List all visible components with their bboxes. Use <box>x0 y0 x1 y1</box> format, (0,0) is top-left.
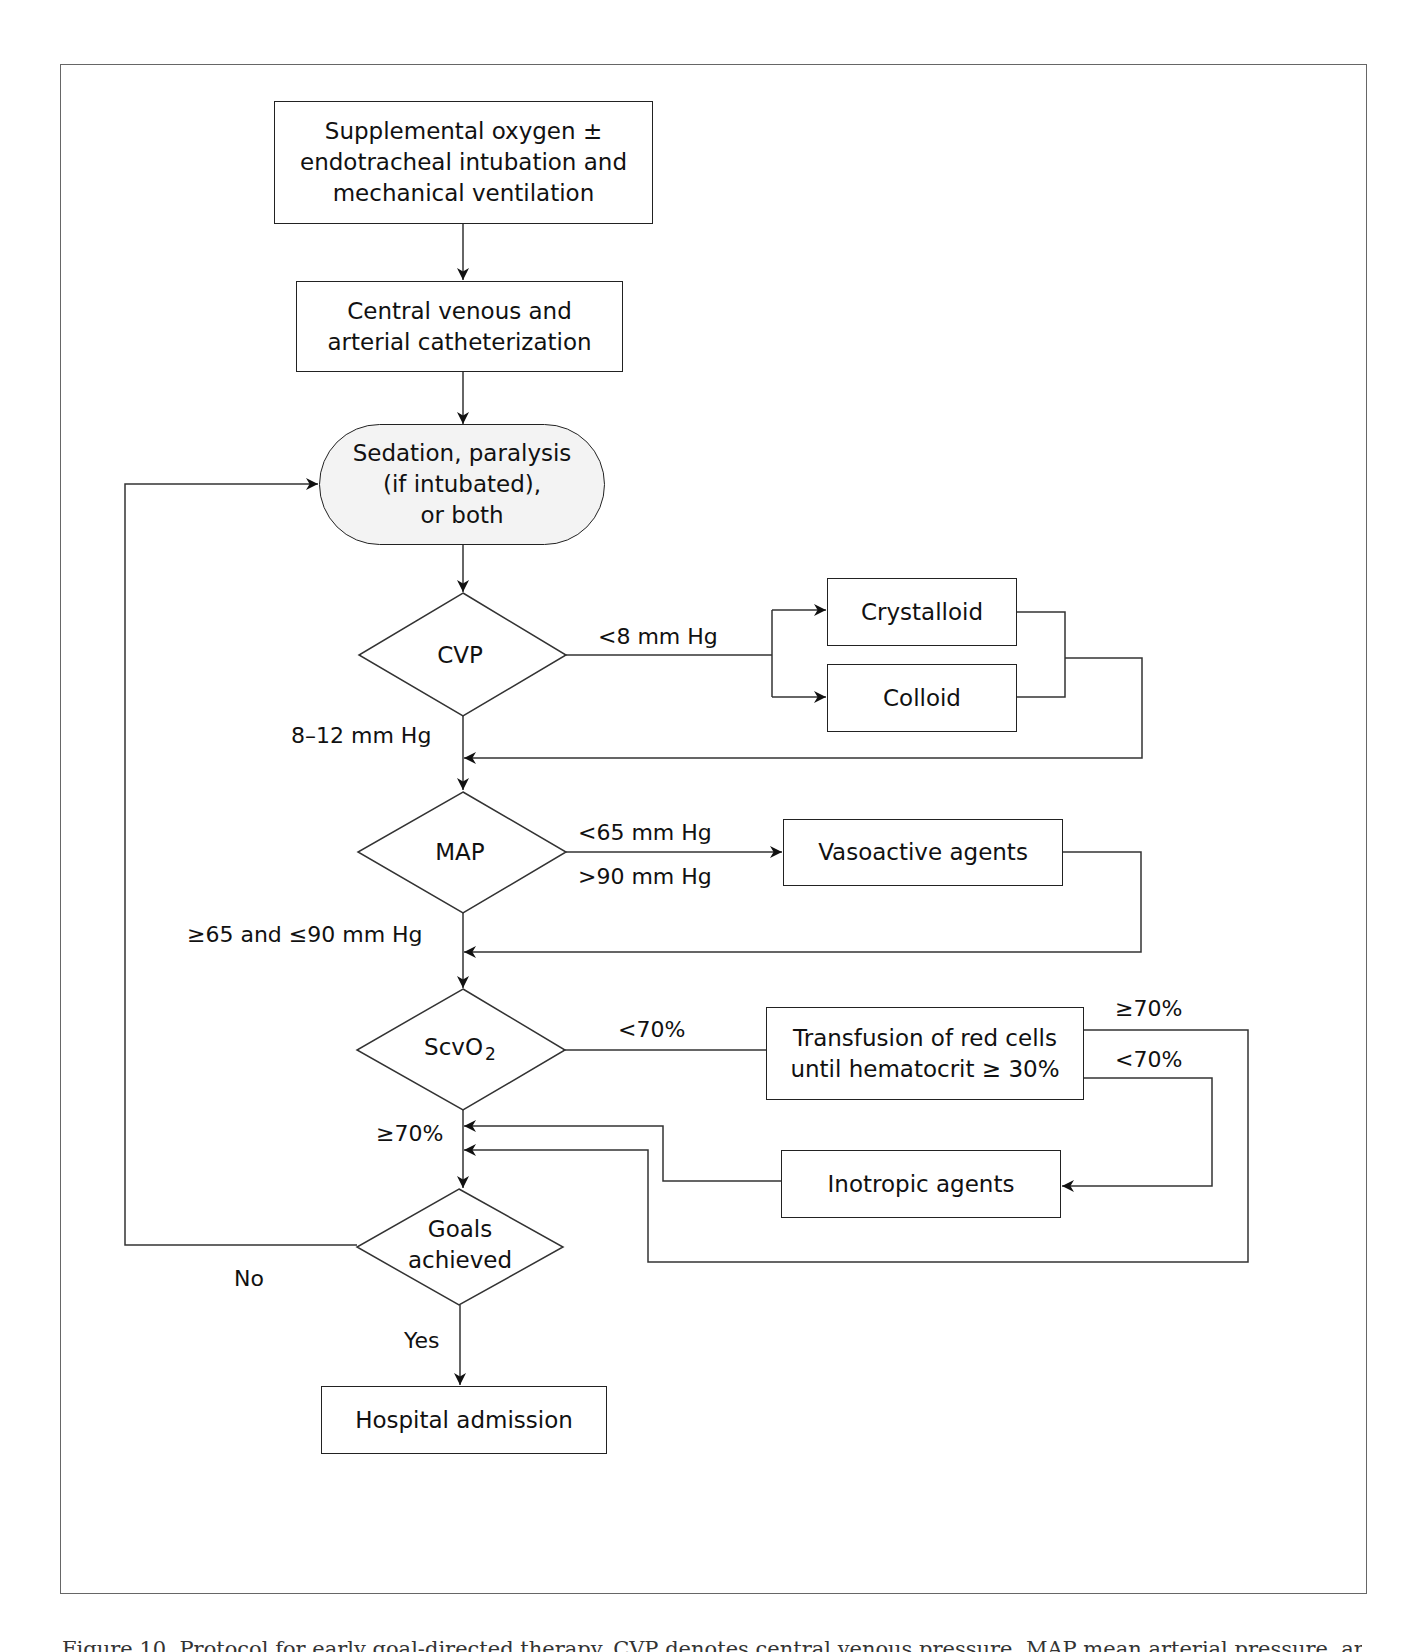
edge-label-cvp-ok: 8–12 mm Hg <box>291 723 431 749</box>
catheterization-box: Central venous and arterial catheterizat… <box>296 281 623 372</box>
scvo2-decision-label: ScvO2 <box>400 1030 520 1064</box>
inotropic-agents-box: Inotropic agents <box>781 1150 1061 1218</box>
supplemental-oxygen-box: Supplemental oxygen ± endotracheal intub… <box>274 101 653 224</box>
transfusion-box: Transfusion of red cells until hematocri… <box>766 1007 1084 1100</box>
edge-label-scvo2-ok: ≥70% <box>376 1121 443 1147</box>
edge-label-goals-yes: Yes <box>404 1328 440 1354</box>
edge-label-scvo2-low: <70% <box>618 1017 685 1043</box>
colloid-box: Colloid <box>827 664 1017 732</box>
flowchart-connectors <box>0 0 1424 1652</box>
sedation-terminal: Sedation, paralysis (if intubated), or b… <box>319 424 605 545</box>
hospital-admission-box: Hospital admission <box>321 1386 607 1454</box>
crystalloid-box: Crystalloid <box>827 578 1017 646</box>
edge-label-map-ok: ≥65 and ≤90 mm Hg <box>187 922 423 948</box>
vasoactive-agents-box: Vasoactive agents <box>783 819 1063 886</box>
edge-label-map-high: >90 mm Hg <box>578 864 712 890</box>
edge-label-map-low: <65 mm Hg <box>578 820 712 846</box>
figure-caption: Figure 10. Protocol for early goal-direc… <box>62 1636 1362 1652</box>
edge-label-cvp-low: <8 mm Hg <box>598 624 718 650</box>
cvp-decision-label: CVP <box>400 638 520 672</box>
map-decision-label: MAP <box>400 835 520 869</box>
edge-label-transfusion-low: <70% <box>1115 1047 1182 1073</box>
goals-decision-label: Goals achieved <box>390 1213 530 1277</box>
edge-label-transfusion-ok: ≥70% <box>1115 996 1182 1022</box>
edge-label-goals-no: No <box>234 1266 264 1292</box>
